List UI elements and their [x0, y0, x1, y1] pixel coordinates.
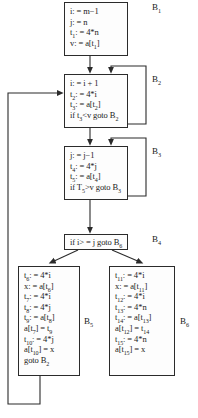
statement: i: = i + 1 — [70, 78, 123, 89]
statement: a[t7] = t9 — [24, 323, 75, 334]
statement: j: = n — [70, 17, 123, 28]
statement: v: = a[t1] — [70, 38, 123, 49]
statement: t12: = 4*i — [115, 291, 170, 302]
block-label-b4: B4 — [152, 234, 161, 244]
statement: t10: = 4*j — [24, 334, 75, 345]
statement: t11: = 4*i — [115, 270, 170, 281]
statement: x: = a[t11] — [115, 281, 170, 292]
statement: t4: = 4*j — [70, 161, 123, 172]
statement: t3: = a[t2] — [70, 99, 123, 110]
basic-block-b3[interactable]: j: = j−1t4: = 4*jt5: = a[t4]if T5>v goto… — [64, 146, 128, 200]
statement: a[t12] = t14 — [115, 323, 170, 334]
statement: t13: = 4*n — [115, 302, 170, 313]
statement: t9: = a[t8] — [24, 312, 75, 323]
edge-b4-b5 — [52, 250, 78, 262]
block-label-b6: B6 — [180, 316, 189, 326]
statement: t1: = 4*n — [70, 27, 123, 38]
statement: a[t15] = x — [115, 344, 170, 355]
statement: goto B2 — [24, 355, 75, 366]
statement: t14: = a[t13] — [115, 312, 170, 323]
statement: if t3<v goto B2 — [70, 110, 123, 121]
statement: t7: = 4*i — [24, 291, 75, 302]
statement: if i> = j goto B6 — [70, 237, 123, 248]
statement: x: = a[t6] — [24, 281, 75, 292]
block-label-b5: B5 — [84, 316, 93, 326]
statement: if T5>v goto B3 — [70, 182, 123, 193]
block-label-b2: B2 — [152, 74, 161, 84]
basic-block-b1[interactable]: i: = m−1j: = nt1: = 4*nv: = a[t1] — [64, 2, 128, 56]
statement: t5: = a[t4] — [70, 171, 123, 182]
statement: a[t10] = x — [24, 344, 75, 355]
statement: t15: = 4*n — [115, 334, 170, 345]
block-label-b1: B1 — [152, 2, 161, 12]
basic-block-b4[interactable]: if i> = j goto B6 — [64, 234, 128, 250]
basic-block-b5[interactable]: t6: = 4*ix: = a[t6]t7: = 4*it8: = 4*jt9:… — [18, 266, 80, 376]
basic-block-b6[interactable]: t11: = 4*ix: = a[t11]t12: = 4*it13: = 4*… — [109, 266, 175, 376]
basic-block-b2[interactable]: i: = i + 1t2: = 4*it3: = a[t2]if t3<v go… — [64, 74, 128, 128]
statement: t6: = 4*i — [24, 270, 75, 281]
statement: t8: = 4*j — [24, 302, 75, 313]
flow-graph-canvas: i: = m−1j: = nt1: = 4*nv: = a[t1] B1 i: … — [0, 0, 198, 418]
statement: j: = j−1 — [70, 150, 123, 161]
statement: t2: = 4*i — [70, 89, 123, 100]
statement: i: = m−1 — [70, 6, 123, 17]
edge-b4-b6 — [112, 250, 140, 262]
block-label-b3: B3 — [152, 146, 161, 156]
